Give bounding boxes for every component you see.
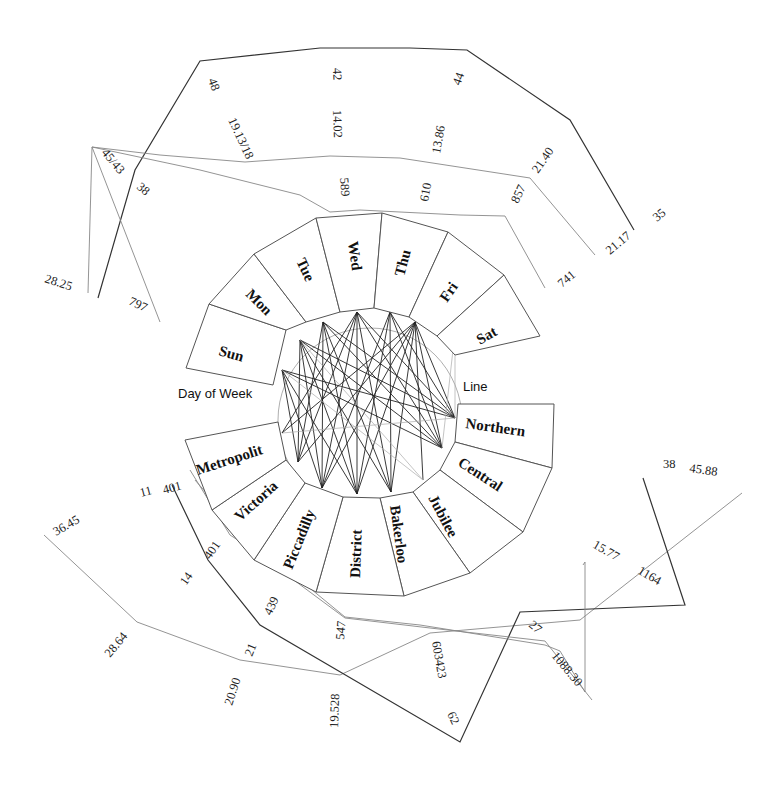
- value-45-88: 45.88: [689, 461, 719, 479]
- value-857: 857: [508, 182, 529, 205]
- axis-label-day-of-week: Day of Week: [178, 386, 253, 401]
- value-62: 62: [444, 709, 462, 726]
- value-21: 21: [242, 641, 260, 658]
- value-38-lower: 38: [663, 457, 676, 471]
- value-1088-30: 1088.30: [549, 649, 586, 689]
- value-44: 44: [450, 70, 468, 87]
- value-603-423: 603423: [429, 640, 449, 679]
- value-1164: 1164: [636, 563, 665, 588]
- value-14: 14: [177, 569, 196, 588]
- value-20-90: 20.90: [222, 676, 244, 707]
- axis-label-line: Line: [463, 379, 488, 394]
- value-11: 11: [138, 483, 153, 500]
- value-28-64: 28.64: [102, 629, 131, 660]
- value-797: 797: [127, 294, 150, 315]
- value-42: 42: [330, 68, 344, 81]
- radial-parallel-sets-chart: Sun Mon Tue Wed Thu Fri Sat Northern Cen…: [0, 0, 774, 791]
- value-35: 35: [650, 206, 669, 225]
- value-21-40: 21.40: [529, 145, 557, 176]
- value-547: 547: [333, 620, 349, 640]
- value-19-13: 19.13/18: [225, 115, 256, 161]
- value-741: 741: [555, 268, 578, 291]
- value-610: 610: [417, 182, 434, 203]
- value-589: 589: [337, 177, 353, 197]
- value-38-upper: 38: [134, 180, 153, 199]
- value-401-b: 401: [201, 538, 223, 561]
- value-28-25: 28.25: [43, 272, 74, 294]
- value-13-86: 13.86: [429, 124, 448, 154]
- value-48: 48: [205, 76, 222, 93]
- value-439: 439: [261, 594, 282, 617]
- value-21-17: 21.17: [603, 228, 634, 257]
- value-27: 27: [526, 618, 545, 637]
- value-36-45: 36.45: [51, 512, 82, 538]
- value-19-52: 19.528: [327, 693, 342, 728]
- label-district: District: [347, 529, 365, 578]
- value-14-02: 14.02: [330, 110, 345, 139]
- value-401-a: 401: [161, 479, 183, 497]
- value-15-77: 15.77: [591, 537, 622, 563]
